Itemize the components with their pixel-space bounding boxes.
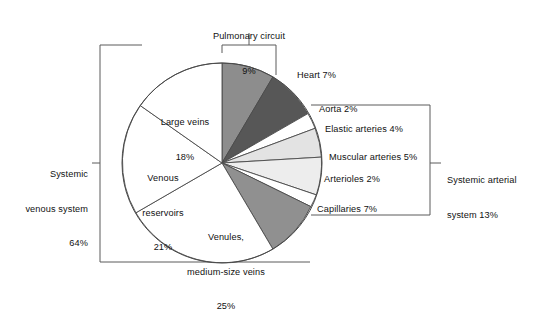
label-venules-medium-size-veins-line3: 25% xyxy=(164,301,288,313)
label-systemic-venous-system-line1: Systemic xyxy=(0,169,88,181)
label-arterioles: Arterioles 2% xyxy=(324,174,380,186)
label-venules-medium-size-veins: Venules, medium-size veins 25% xyxy=(164,209,288,313)
label-pulmonary-circuit: Pulmonary circuit 9% xyxy=(186,8,312,100)
label-heart: Heart 7% xyxy=(297,70,336,82)
label-capillaries: Capillaries 7% xyxy=(317,204,377,216)
label-systemic-arterial-system: Systemic arterial system 13% xyxy=(447,152,533,244)
label-systemic-venous-system-line3: 64% xyxy=(0,238,88,250)
label-venules-medium-size-veins-line1: Venules, xyxy=(164,232,288,244)
label-large-veins-line1: Large veins xyxy=(140,117,230,129)
label-systemic-venous-system: Systemic venous system 64% xyxy=(0,146,88,273)
label-venules-medium-size-veins-line2: medium-size veins xyxy=(164,267,288,279)
label-pulmonary-circuit-line1: Pulmonary circuit xyxy=(186,31,312,43)
label-venous-reservoirs-line1: Venous xyxy=(118,173,208,185)
label-muscular-arteries: Muscular arteries 5% xyxy=(329,152,417,164)
label-systemic-arterial-system-line1: Systemic arterial xyxy=(447,175,533,187)
label-systemic-arterial-system-line2: system 13% xyxy=(447,210,533,222)
label-systemic-venous-system-line2: venous system xyxy=(0,204,88,216)
label-aorta: Aorta 2% xyxy=(319,104,358,116)
label-pulmonary-circuit-line2: 9% xyxy=(186,66,312,78)
label-elastic-arteries: Elastic arteries 4% xyxy=(325,124,403,136)
